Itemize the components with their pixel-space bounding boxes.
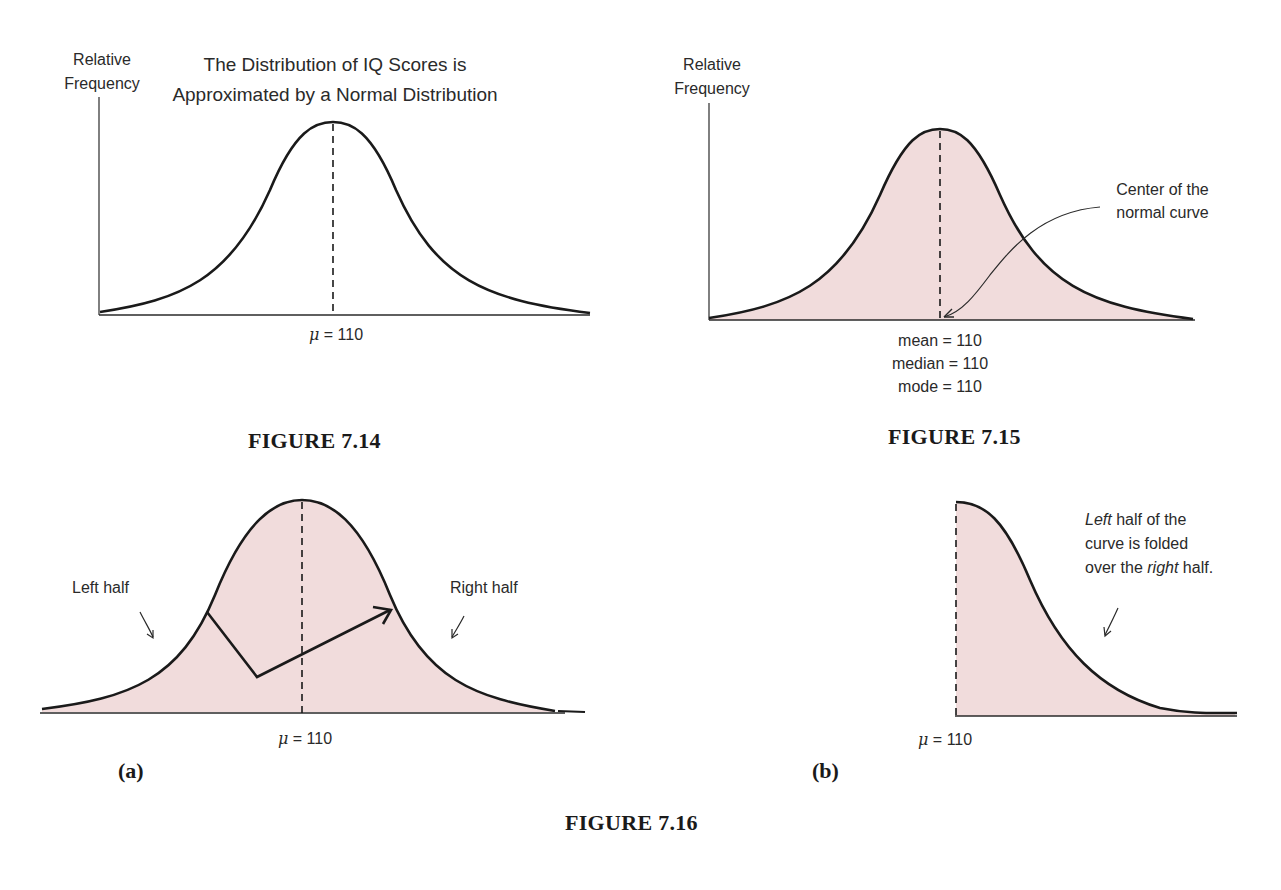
fold-note-line3-post: half. [1178,559,1213,576]
mean-label-a: μ = 110 [245,727,365,751]
fold-note-line2: curve is folded [1085,532,1213,556]
figure-caption: FIGURE 7.16 [565,810,698,836]
panel-label-b: (b) [812,758,839,784]
mu-value: = 110 [288,730,332,747]
fold-note: Left half of the curve is folded over th… [1085,508,1213,580]
figure-7-16-plot [0,0,1281,890]
fold-note-line3-pre: over the [1085,559,1147,576]
panel-label-a: (a) [118,758,144,784]
mean-label-b: μ = 110 [918,728,972,752]
fold-note-left-italic: Left [1085,511,1112,528]
fold-note-line1: Left half of the [1085,508,1213,532]
right-half-label: Right half [450,576,518,600]
mu-symbol: μ [278,729,288,748]
fold-note-line3: over the right half. [1085,556,1213,580]
left-half-label: Left half [72,576,129,600]
fold-note-right-italic: right [1147,559,1178,576]
fold-note-line1-rest: half of the [1112,511,1187,528]
mu-value: = 110 [928,731,972,748]
mu-symbol: μ [918,730,928,749]
